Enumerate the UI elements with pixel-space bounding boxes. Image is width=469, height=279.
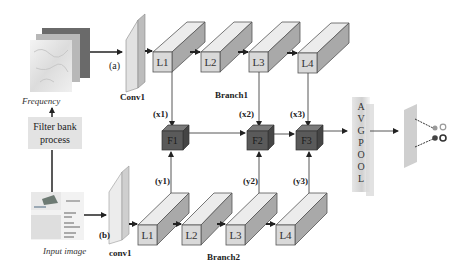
branch2-l3-block: L3 [226,193,277,245]
label-x3: (x3) [290,109,305,119]
label-x1: (x1) [153,109,168,119]
svg-text:L1: L1 [156,56,168,68]
svg-text:L4: L4 [301,57,314,69]
svg-text:V: V [357,113,365,124]
input-image-label: Input image [42,246,86,256]
branch2-l1-block: L1 [138,193,189,245]
label-y1: (y1) [155,176,170,186]
svg-text:F3: F3 [301,135,312,146]
conv1-top-label: Conv1 [120,92,146,102]
svg-text:G: G [357,125,364,136]
avgpool-layer: A V G P O O L [352,97,374,196]
frequency-label: Frequency [21,96,60,106]
architecture-diagram: Frequency Filter bank process Input imag… [0,0,469,279]
branch1-l1-block: L1 [153,22,205,72]
svg-text:Filter bank: Filter bank [33,121,77,132]
svg-text:O: O [357,161,364,172]
conv1-top-tag: (a) [109,60,120,72]
svg-text:F1: F1 [167,135,178,146]
branch1: L1 L2 L3 L4 [145,22,349,73]
branch2-title: Branch2 [207,252,241,262]
input-image-thumbnail [31,192,84,240]
conv1-top-slab [126,14,145,92]
branch1-l3-block: L3 [249,22,300,72]
fc-layer-icon [404,104,417,168]
svg-text:A: A [357,101,365,112]
svg-text:process: process [40,134,70,145]
fusion-f3: F3 [296,125,323,150]
svg-text:O: O [357,149,364,160]
branch1-title: Branch1 [215,90,249,100]
frequency-stack [30,28,90,92]
svg-text:L: L [358,173,364,184]
svg-text:F2: F2 [252,135,263,146]
fusion-f1: F1 [162,125,189,150]
svg-text:P: P [358,137,364,148]
branch2-l4-block: L4 [276,193,327,245]
svg-text:L4: L4 [279,229,292,241]
svg-text:L1: L1 [141,229,153,241]
conv1-bottom-slab [109,166,129,244]
svg-text:L3: L3 [229,229,242,241]
label-x2: (x2) [239,109,254,119]
branch2-l2-block: L2 [182,193,232,245]
fusion-f2: F2 [247,125,274,150]
svg-text:L3: L3 [252,56,265,68]
svg-text:L2: L2 [204,56,216,68]
svg-text:L2: L2 [185,229,197,241]
conv1-bottom-label: conv1 [109,248,132,258]
label-y3: (y3) [293,176,308,186]
branch2: L1 L2 L3 L4 [129,193,327,245]
class-output-icon [415,119,446,147]
conv1-bottom-tag: (b) [99,230,110,240]
filter-bank-process: Filter bank process [28,117,82,149]
label-y2: (y2) [243,176,258,186]
branch1-l4-block: L4 [298,23,349,73]
branch1-l2-block: L2 [201,22,252,72]
